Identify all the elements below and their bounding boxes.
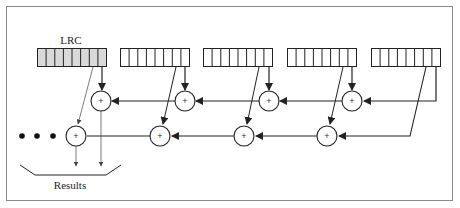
results-label: Results: [54, 179, 86, 191]
register-lrc: [38, 49, 107, 67]
svg-text:+: +: [266, 96, 271, 106]
svg-text:+: +: [241, 131, 246, 141]
register-byte-1: [121, 49, 190, 67]
register-byte-3: [288, 49, 357, 67]
lrc-bit1-line: [78, 67, 93, 124]
svg-text:+: +: [349, 96, 354, 106]
lrc-diagram: LRC: [0, 0, 460, 208]
register-byte-2: [204, 49, 273, 67]
svg-text:+: +: [324, 131, 329, 141]
svg-text:+: +: [98, 96, 103, 106]
svg-text:+: +: [182, 96, 187, 106]
svg-text:+: +: [157, 131, 162, 141]
ellipsis-icon: [19, 133, 56, 139]
lrc-label: LRC: [60, 34, 81, 46]
register-byte-4: [372, 49, 441, 67]
bit0-arrows: [102, 67, 352, 90]
results-tray: [20, 165, 121, 175]
svg-text:+: +: [73, 131, 78, 141]
